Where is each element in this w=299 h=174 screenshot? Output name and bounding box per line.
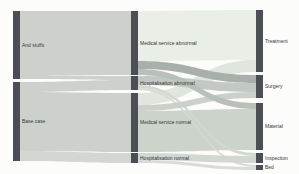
sankey-node-material[interactable] <box>256 103 263 150</box>
sankey-link-medical-service-normal-to-material[interactable] <box>138 109 256 152</box>
sankey-diagram: And stuffsBase caseMedical service abnor… <box>0 0 299 174</box>
sankey-link-base-case-to-hospitalisation-normal[interactable] <box>20 151 131 163</box>
sankey-node-label-bed: Bed <box>265 164 274 170</box>
sankey-node-label-surgery: Surgery <box>265 83 283 89</box>
sankey-node-medical-service-normal[interactable] <box>131 93 138 152</box>
sankey-link-and-stuffs-to-hospitalisation-abnormal[interactable] <box>20 75 131 80</box>
sankey-node-medical-service-abnormal[interactable] <box>131 11 138 75</box>
sankey-node-treatment[interactable] <box>256 10 263 72</box>
sankey-node-label-inspection: Inspection <box>265 155 288 161</box>
sankey-node-base-case[interactable] <box>13 82 20 161</box>
sankey-node-label-medical-service-normal: Medical service normal <box>140 119 191 125</box>
sankey-node-label-medical-service-abnormal: Medical service abnormal <box>140 40 197 46</box>
sankey-link-base-case-to-hospitalisation-abnormal[interactable] <box>20 80 131 92</box>
sankey-node-label-treatment: Treatment <box>265 38 288 44</box>
sankey-node-bed[interactable] <box>256 165 263 170</box>
sankey-node-inspection[interactable] <box>256 153 263 163</box>
sankey-node-and-stuffs[interactable] <box>13 11 20 79</box>
sankey-node-surgery[interactable] <box>256 75 263 98</box>
sankey-node-label-base-case: Base case <box>22 118 46 124</box>
sankey-node-hospitalisation-abnormal[interactable] <box>131 76 138 90</box>
sankey-node-label-hospitalisation-abnormal: Hospitalisation abnormal <box>140 80 195 86</box>
sankey-link-medical-service-abnormal-to-treatment[interactable] <box>138 10 256 61</box>
sankey-node-label-material: Material <box>265 123 283 129</box>
sankey-node-label-hospitalisation-normal: Hospitalisation normal <box>140 155 189 161</box>
sankey-node-hospitalisation-normal[interactable] <box>131 153 138 163</box>
sankey-svg: And stuffsBase caseMedical service abnor… <box>0 0 299 174</box>
sankey-node-label-and-stuffs: And stuffs <box>22 42 45 48</box>
